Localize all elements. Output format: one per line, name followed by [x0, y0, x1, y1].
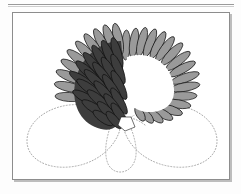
left-lobe-group: [53, 22, 130, 131]
figure-canvas: [13, 13, 231, 181]
figure-root: [0, 0, 241, 194]
figure-frame: [12, 12, 230, 180]
top-rule-secondary: [8, 6, 234, 7]
top-rule-primary: [8, 4, 234, 5]
right-lobe-group: [121, 26, 201, 125]
